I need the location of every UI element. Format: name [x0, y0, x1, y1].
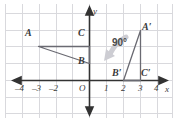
x-tick-label-4: 4: [154, 84, 159, 93]
rotation-angle-label: 90°: [112, 38, 127, 48]
vertex-label-a-prime: A′: [142, 22, 151, 32]
x-tick-label-neg2: –2: [49, 84, 58, 93]
x-tick-label-2: 2: [121, 84, 126, 93]
x-tick-label-neg4: –4: [15, 84, 24, 93]
x-axis-arrow-right: [159, 77, 167, 84]
vertex-label-a: A: [25, 28, 32, 38]
y-axis-arrow-up: [86, 7, 93, 15]
vertex-label-c-prime: C′: [141, 68, 150, 78]
x-tick-label-neg3: –3: [32, 84, 41, 93]
x-tick-label-1: 1: [104, 84, 109, 93]
figure-canvas: [0, 0, 178, 122]
vertex-label-b-prime: B′: [112, 68, 121, 78]
origin-label: O: [79, 84, 86, 93]
x-axis-name: x: [165, 85, 169, 94]
y-axis-name: y: [93, 7, 97, 16]
vertex-label-b: B: [78, 56, 85, 66]
x-tick-label-3: 3: [138, 84, 143, 93]
vertex-label-c: C: [78, 28, 85, 38]
coordinate-plane-figure: A C B A′ C′ B′ 90° –4 –3 –2 1 2 3 4 O x …: [0, 0, 178, 122]
